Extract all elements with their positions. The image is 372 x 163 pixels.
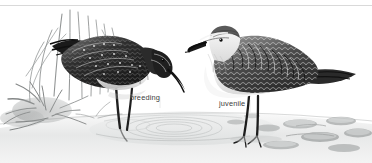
label-breeding: breeding [130, 94, 160, 101]
shorebird-illustration [0, 0, 372, 163]
illustration-plate: breeding juvenile [0, 0, 372, 163]
label-juvenile: juvenile [219, 100, 245, 107]
